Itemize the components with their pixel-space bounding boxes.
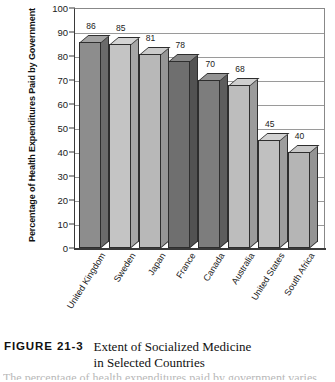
y-axis-tick-labels: 1009080706050403020100 xyxy=(40,0,68,260)
bar-front-face xyxy=(228,85,250,248)
bar: 45 xyxy=(258,140,280,248)
body-text-fragment: The percentage of health expenditures pa… xyxy=(3,372,333,380)
bar-value-label: 86 xyxy=(86,21,95,31)
bar-value-label: 81 xyxy=(146,33,155,43)
bar-side-face xyxy=(250,78,258,248)
figure-caption: FIGURE 21-3 Extent of Socialized Medicin… xyxy=(4,339,332,370)
y-tick-label: 60 xyxy=(42,99,68,110)
bar-front-face xyxy=(258,140,280,248)
bar-front-face xyxy=(109,44,131,248)
bar-side-face xyxy=(310,145,318,248)
bar-value-label: 45 xyxy=(265,119,274,129)
x-tick-label: South Africa xyxy=(282,251,316,297)
bar-side-face xyxy=(220,73,228,248)
bar: 85 xyxy=(109,44,131,248)
bar: 40 xyxy=(288,152,310,248)
bar: 78 xyxy=(168,61,190,248)
bar: 70 xyxy=(198,80,220,248)
bar-value-label: 78 xyxy=(176,40,185,50)
bar-value-label: 85 xyxy=(116,23,125,33)
y-tick-label: 80 xyxy=(42,51,68,62)
figure-container: Percentage of Health Expenditures Paid b… xyxy=(0,0,335,382)
bar: 86 xyxy=(79,42,101,248)
x-tick-label: Japan xyxy=(146,251,167,277)
x-tick-label: Canada xyxy=(202,251,227,283)
x-axis-category-labels: United KingdomSwedenJapanFranceCanadaAus… xyxy=(74,251,326,336)
x-tick-label: United Kingdom xyxy=(65,251,107,311)
y-tick-label: 10 xyxy=(42,219,68,230)
figure-title: Extent of Socialized Medicine in Selecte… xyxy=(94,339,252,370)
bar-chart: Percentage of Health Expenditures Paid b… xyxy=(0,0,335,336)
y-tick-label: 20 xyxy=(42,195,68,206)
bar-side-face xyxy=(161,47,169,248)
y-tick-label: 50 xyxy=(42,123,68,134)
y-tick-label: 40 xyxy=(42,147,68,158)
bar-front-face xyxy=(168,61,190,248)
bar-value-label: 40 xyxy=(295,131,304,141)
y-tick-label: 100 xyxy=(42,3,68,14)
bar: 81 xyxy=(139,54,161,248)
bar-side-face xyxy=(190,54,198,248)
x-tick-label: France xyxy=(174,251,197,280)
figure-title-line-1: Extent of Socialized Medicine xyxy=(94,339,252,355)
bar-side-face xyxy=(101,35,109,248)
bar-front-face xyxy=(198,80,220,248)
bar: 68 xyxy=(228,85,250,248)
bar-side-face xyxy=(280,133,288,248)
x-tick-label: Sweden xyxy=(112,251,138,284)
bar-value-label: 68 xyxy=(235,64,244,74)
bar-front-face xyxy=(79,42,101,248)
y-tick-label: 90 xyxy=(42,27,68,38)
bars-group: 8685817870684540 xyxy=(74,0,326,249)
bar-front-face xyxy=(139,54,161,248)
bar-value-label: 70 xyxy=(205,59,214,69)
bar-front-face xyxy=(288,152,310,248)
x-tick-label: Australia xyxy=(230,251,257,286)
y-tick-label: 0 xyxy=(42,243,68,254)
figure-title-line-2: in Selected Countries xyxy=(94,355,252,371)
y-tick-label: 70 xyxy=(42,75,68,86)
bar-side-face xyxy=(131,37,139,248)
y-axis-title: Percentage of Health Expenditures Paid b… xyxy=(27,0,37,250)
figure-number: FIGURE 21-3 xyxy=(4,339,84,352)
y-tick-label: 30 xyxy=(42,171,68,182)
